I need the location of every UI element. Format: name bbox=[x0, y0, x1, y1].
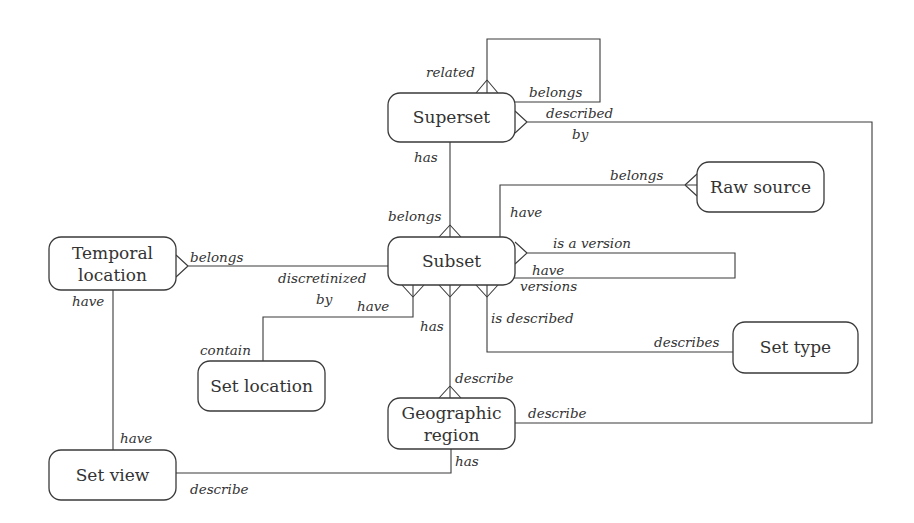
label-is-a-version: is a version bbox=[553, 235, 631, 251]
setview-region-relationship: describe has bbox=[176, 449, 479, 497]
subset-rawsource-relationship: have belongs bbox=[500, 167, 697, 238]
crows-foot-icon bbox=[515, 111, 527, 133]
crows-foot-icon bbox=[515, 242, 527, 264]
label-belongs: belongs bbox=[610, 167, 663, 183]
label-describe: describe bbox=[455, 370, 514, 386]
label-have: have bbox=[72, 293, 104, 309]
label-have: have bbox=[532, 262, 564, 278]
label-have: have bbox=[510, 204, 542, 220]
subset-version-relationship: is a version have versions bbox=[513, 235, 735, 294]
label-related: related bbox=[426, 64, 475, 80]
label-describes: describes bbox=[654, 334, 720, 350]
entity-label-line2: location bbox=[78, 265, 147, 285]
entity-raw-source[interactable]: Raw source bbox=[697, 162, 824, 212]
superset-region-relationship: described by describe bbox=[515, 105, 872, 423]
entity-set-location[interactable]: Set location bbox=[198, 361, 325, 411]
entity-label: Set type bbox=[760, 337, 831, 357]
label-discretinized: discretinized bbox=[278, 270, 367, 286]
entity-label: Set view bbox=[76, 465, 150, 485]
entity-set-type[interactable]: Set type bbox=[733, 322, 858, 373]
label-versions: versions bbox=[520, 278, 577, 294]
entity-label-line1: Geographic bbox=[402, 403, 502, 423]
label-have: have bbox=[120, 430, 152, 446]
label-has: has bbox=[414, 149, 438, 165]
entity-label: Set location bbox=[210, 376, 313, 396]
crows-foot-icon bbox=[176, 255, 188, 277]
label-has: has bbox=[420, 318, 444, 334]
label-has: has bbox=[455, 453, 479, 469]
entity-set-view[interactable]: Set view bbox=[49, 450, 176, 500]
subset-region-relationship: has describe bbox=[420, 285, 514, 398]
temporal-setview-relationship: have have bbox=[72, 290, 152, 450]
entity-label: Superset bbox=[413, 107, 490, 127]
entity-label-line1: Temporal bbox=[72, 243, 153, 263]
label-described: described bbox=[546, 105, 614, 121]
label-contain: contain bbox=[200, 342, 251, 358]
label-is-described: is described bbox=[491, 310, 574, 326]
label-belongs: belongs bbox=[388, 208, 441, 224]
er-diagram: related belongs described by describe ha… bbox=[0, 0, 914, 523]
label-belongs: belongs bbox=[190, 249, 243, 265]
label-by: by bbox=[316, 291, 333, 307]
subset-settype-relationship: is described describes bbox=[476, 285, 733, 352]
subset-setlocation-relationship: have contain bbox=[200, 285, 424, 361]
label-by: by bbox=[572, 126, 589, 142]
label-belongs: belongs bbox=[529, 84, 582, 100]
superset-subset-relationship: has belongs bbox=[388, 142, 461, 237]
entity-temporal-location[interactable]: Temporal location bbox=[49, 237, 176, 290]
entity-subset[interactable]: Subset bbox=[388, 237, 515, 285]
entity-label: Raw source bbox=[710, 177, 811, 197]
label-have: have bbox=[357, 298, 389, 314]
label-describe: describe bbox=[528, 405, 587, 421]
entity-superset[interactable]: Superset bbox=[388, 93, 515, 142]
label-describe: describe bbox=[190, 481, 249, 497]
entity-label: Subset bbox=[422, 251, 481, 271]
entity-label-line2: region bbox=[424, 425, 480, 445]
entity-geographic-region[interactable]: Geographic region bbox=[388, 398, 515, 449]
